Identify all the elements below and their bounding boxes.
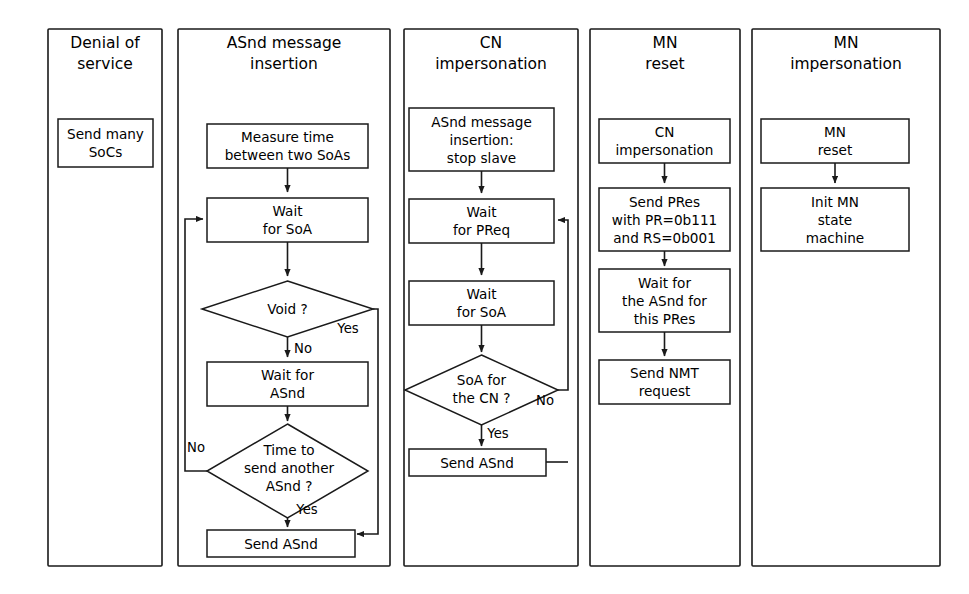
flowchart-diagram: Denial of service Send many SoCs ASnd me… (0, 0, 969, 594)
panel-mn-impersonation: MN impersonation MN reset Init MN state … (752, 29, 940, 566)
node-send-pres: Send PRes with PR=0b111 and RS=0b001 (599, 188, 730, 251)
node-label-line: this PRes (634, 311, 696, 327)
node-asnd-stop-slave: ASnd message insertion: stop slave (409, 108, 554, 171)
node-label-line: Wait for (638, 275, 691, 291)
node-label-line: for SoA (263, 221, 313, 237)
flowchart-canvas: Denial of service Send many SoCs ASnd me… (0, 0, 969, 594)
node-label-line: Init MN (811, 194, 859, 210)
panel-title-line: Denial of (70, 34, 140, 52)
node-label-line: ASnd ? (266, 478, 313, 494)
node-label-line: Send PRes (629, 194, 700, 210)
node-send-asnd-cn: Send ASnd (409, 449, 546, 476)
edge-label-void-yes: Yes (336, 321, 358, 336)
node-label-line: Send many (67, 126, 144, 142)
node-measure-time: Measure time between two SoAs (207, 124, 368, 168)
node-label-line: CN (655, 124, 675, 140)
node-wait-for-soa: Wait for SoA (207, 198, 368, 242)
panel-title-line: CN (480, 34, 502, 52)
node-label-line: state (818, 212, 852, 228)
panel-title-line: impersonation (435, 55, 547, 73)
panel-border (48, 29, 162, 566)
node-label-line: machine (806, 230, 864, 246)
edge-label-soa-cn-no: No (536, 393, 554, 408)
node-label-line: ASnd (270, 385, 305, 401)
panel-title-line: insertion (250, 55, 318, 73)
node-label-line: SoCs (89, 144, 123, 160)
panel-title-line: reset (645, 55, 684, 73)
panel-mn-reset: MN reset CN impersonation Send PRes with… (590, 29, 740, 566)
node-label-line: send another (244, 460, 335, 476)
panel-asnd-message-insertion: ASnd message insertion Measure time betw… (178, 29, 390, 566)
node-label-line: Send ASnd (244, 536, 318, 552)
node-label-line: insertion: (449, 132, 513, 148)
node-wait-for-preq: Wait for PReq (409, 199, 554, 243)
node-label-line: stop slave (447, 150, 516, 166)
panel-title-line: service (77, 55, 133, 73)
node-label-line: between two SoAs (225, 147, 351, 163)
node-label-line: the ASnd for (622, 293, 707, 309)
node-label-line: with PR=0b111 (612, 212, 717, 228)
edge-label-time-no: No (187, 440, 205, 455)
node-label-line: Send NMT (630, 365, 699, 381)
edge-label-time-yes: Yes (295, 502, 317, 517)
node-label-line: and RS=0b001 (613, 230, 716, 246)
node-label-line: for SoA (457, 304, 507, 320)
panel-border (752, 29, 940, 566)
edge-label-soa-cn-yes: Yes (486, 426, 508, 441)
node-label-line: reset (818, 142, 852, 158)
node-label-line: Send ASnd (440, 455, 514, 471)
node-label-line: Wait for (261, 367, 314, 383)
panel-title-line: MN (834, 34, 859, 52)
node-label-line: Measure time (241, 129, 334, 145)
edge-label-void-no: No (294, 341, 312, 356)
node-label-line: Time to (262, 442, 314, 458)
panel-cn-impersonation: CN impersonation ASnd message insertion:… (404, 29, 578, 566)
node-label-line: Wait (272, 203, 302, 219)
node-send-asnd: Send ASnd (207, 530, 355, 557)
node-label-line: ASnd message (431, 114, 532, 130)
node-init-mn-state-machine: Init MN state machine (761, 188, 909, 251)
node-label-line: Wait (466, 286, 496, 302)
panel-denial-of-service: Denial of service Send many SoCs (48, 29, 162, 566)
panel-title-line: impersonation (790, 55, 902, 73)
node-label-line: impersonation (616, 142, 714, 158)
node-wait-for-soa-cn: Wait for SoA (409, 281, 554, 325)
node-label-line: Void ? (267, 301, 308, 317)
node-cn-impersonation-step: CN impersonation (599, 119, 730, 163)
node-label-line: Wait (466, 204, 496, 220)
node-send-many-socs: Send many SoCs (58, 119, 153, 167)
node-label-line: the CN ? (453, 390, 511, 406)
panel-title-line: MN (653, 34, 678, 52)
node-wait-asnd-pres: Wait for the ASnd for this PRes (599, 269, 730, 332)
node-label-line: MN (824, 124, 846, 140)
node-label-line: for PReq (453, 222, 510, 238)
node-label-line: request (639, 383, 691, 399)
node-mn-reset-step: MN reset (761, 119, 909, 163)
panel-title-line: ASnd message (227, 34, 342, 52)
node-wait-for-asnd: Wait for ASnd (207, 362, 368, 406)
node-send-nmt-request: Send NMT request (599, 360, 730, 404)
node-label-line: SoA for (457, 372, 507, 388)
